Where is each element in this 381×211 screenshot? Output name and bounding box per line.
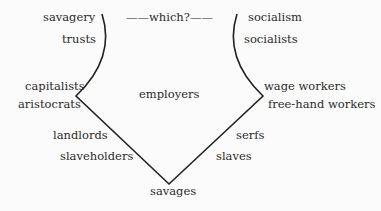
label-socialists: socialists: [244, 33, 298, 46]
label-free-hand-workers: free-hand workers: [268, 98, 375, 111]
label-slaveholders: slaveholders: [60, 150, 133, 163]
label-savages: savages: [150, 185, 196, 198]
label-serfs: serfs: [236, 129, 264, 142]
label-slaves: slaves: [216, 150, 252, 163]
label-capitalists: capitalists: [25, 80, 85, 93]
label-landlords: landlords: [53, 129, 108, 142]
label-trusts: trusts: [62, 33, 96, 46]
label-socialism: socialism: [248, 11, 302, 24]
label-wage-workers: wage workers: [264, 80, 346, 93]
label-aristocrats: aristocrats: [18, 98, 81, 111]
diagram-canvas: savagery trusts capitalists aristocrats …: [0, 0, 381, 211]
label-employers: employers: [139, 88, 199, 101]
label-which: ——which?——: [126, 11, 213, 24]
label-savagery: savagery: [43, 11, 95, 24]
